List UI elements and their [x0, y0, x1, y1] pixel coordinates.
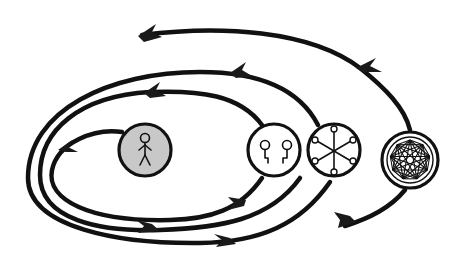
node-individual — [119, 124, 171, 176]
node-star — [308, 124, 360, 176]
arrow-up-left-icon — [356, 58, 382, 72]
feedback-loops-diagram — [0, 0, 466, 277]
arrow-left-icon — [230, 62, 252, 78]
node-pair — [248, 124, 300, 176]
node-mesh — [382, 132, 438, 188]
